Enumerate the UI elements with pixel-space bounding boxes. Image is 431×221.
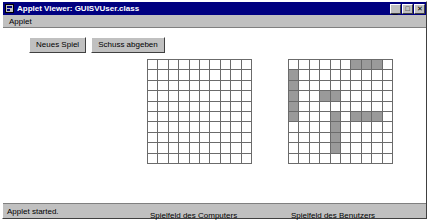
board-cell[interactable] [210, 81, 220, 91]
fire-shot-button[interactable]: Schuss abgeben [91, 37, 165, 53]
board-cell[interactable] [310, 133, 320, 143]
board-cell[interactable] [169, 112, 179, 122]
board-cell[interactable] [210, 91, 220, 101]
board-cell[interactable] [320, 81, 330, 91]
board-cell[interactable] [200, 143, 210, 153]
board-cell[interactable] [299, 133, 309, 143]
board-cell[interactable] [210, 143, 220, 153]
board-cell[interactable] [169, 60, 179, 70]
board-cell[interactable] [221, 60, 231, 70]
board-cell[interactable] [362, 70, 372, 80]
board-cell[interactable] [179, 102, 189, 112]
board-cell[interactable] [362, 102, 372, 112]
board-cell[interactable] [289, 122, 299, 132]
board-cell[interactable] [190, 133, 200, 143]
board-cell[interactable] [383, 70, 393, 80]
board-cell[interactable] [320, 60, 330, 70]
board-cell[interactable] [320, 112, 330, 122]
board-cell[interactable] [341, 112, 351, 122]
board-cell[interactable] [221, 70, 231, 80]
board-cell[interactable] [299, 112, 309, 122]
board-cell[interactable] [231, 133, 241, 143]
board-cell[interactable] [169, 70, 179, 80]
board-cell[interactable] [179, 154, 189, 164]
board-cell[interactable] [372, 70, 382, 80]
board-cell[interactable] [242, 60, 252, 70]
board-cell[interactable] [289, 70, 299, 80]
board-cell[interactable] [190, 112, 200, 122]
board-cell[interactable] [158, 122, 168, 132]
board-cell[interactable] [351, 60, 361, 70]
board-cell[interactable] [331, 112, 341, 122]
board-cell[interactable] [320, 154, 330, 164]
board-cell[interactable] [179, 81, 189, 91]
board-cell[interactable] [169, 122, 179, 132]
board-cell[interactable] [383, 81, 393, 91]
board-cell[interactable] [383, 91, 393, 101]
board-cell[interactable] [320, 122, 330, 132]
board-cell[interactable] [320, 102, 330, 112]
board-cell[interactable] [148, 154, 158, 164]
board-cell[interactable] [331, 122, 341, 132]
board-cell[interactable] [148, 102, 158, 112]
board-cell[interactable] [362, 122, 372, 132]
board-cell[interactable] [320, 91, 330, 101]
board-cell[interactable] [310, 91, 320, 101]
board-cell[interactable] [190, 91, 200, 101]
board-cell[interactable] [320, 133, 330, 143]
board-cell[interactable] [242, 112, 252, 122]
board-cell[interactable] [383, 143, 393, 153]
board-cell[interactable] [200, 112, 210, 122]
board-cell[interactable] [148, 70, 158, 80]
board-cell[interactable] [383, 60, 393, 70]
board-cell[interactable] [148, 60, 158, 70]
board-cell[interactable] [242, 70, 252, 80]
board-cell[interactable] [331, 133, 341, 143]
board-cell[interactable] [179, 133, 189, 143]
board-cell[interactable] [148, 81, 158, 91]
board-cell[interactable] [299, 102, 309, 112]
maximize-button[interactable]: □ [402, 4, 413, 14]
board-cell[interactable] [372, 154, 382, 164]
user-board-grid[interactable] [288, 59, 393, 164]
computer-board-grid[interactable] [147, 59, 252, 164]
board-cell[interactable] [242, 91, 252, 101]
board-cell[interactable] [179, 70, 189, 80]
board-cell[interactable] [299, 70, 309, 80]
board-cell[interactable] [158, 102, 168, 112]
board-cell[interactable] [200, 91, 210, 101]
board-cell[interactable] [341, 81, 351, 91]
board-cell[interactable] [351, 70, 361, 80]
board-cell[interactable] [210, 102, 220, 112]
board-cell[interactable] [169, 154, 179, 164]
board-cell[interactable] [179, 60, 189, 70]
board-cell[interactable] [383, 154, 393, 164]
board-cell[interactable] [190, 70, 200, 80]
board-cell[interactable] [351, 81, 361, 91]
board-cell[interactable] [320, 70, 330, 80]
board-cell[interactable] [231, 91, 241, 101]
board-cell[interactable] [310, 112, 320, 122]
board-cell[interactable] [289, 154, 299, 164]
board-cell[interactable] [372, 91, 382, 101]
board-cell[interactable] [169, 81, 179, 91]
board-cell[interactable] [310, 143, 320, 153]
board-cell[interactable] [289, 60, 299, 70]
board-cell[interactable] [362, 60, 372, 70]
board-cell[interactable] [148, 143, 158, 153]
board-cell[interactable] [372, 60, 382, 70]
board-cell[interactable] [299, 154, 309, 164]
board-cell[interactable] [351, 112, 361, 122]
board-cell[interactable] [289, 143, 299, 153]
board-cell[interactable] [331, 70, 341, 80]
board-cell[interactable] [200, 60, 210, 70]
board-cell[interactable] [351, 133, 361, 143]
board-cell[interactable] [341, 122, 351, 132]
board-cell[interactable] [200, 122, 210, 132]
board-cell[interactable] [169, 143, 179, 153]
board-cell[interactable] [310, 70, 320, 80]
new-game-button[interactable]: Neues Spiel [29, 37, 86, 53]
board-cell[interactable] [231, 154, 241, 164]
board-cell[interactable] [231, 122, 241, 132]
board-cell[interactable] [242, 102, 252, 112]
